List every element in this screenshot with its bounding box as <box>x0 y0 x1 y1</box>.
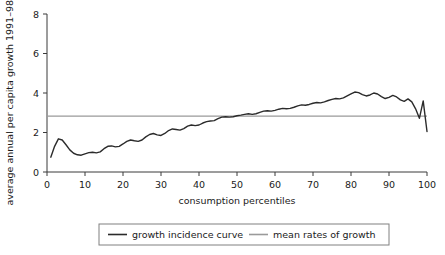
legend-label-growth-incidence-curve: growth incidence curve <box>132 229 243 240</box>
y-tick-label: 0 <box>33 167 39 178</box>
x-tick-label: 10 <box>79 179 91 190</box>
legend-label-mean-rates-of-growth: mean rates of growth <box>273 229 375 240</box>
y-tick-label: 2 <box>33 127 39 138</box>
chart-background <box>0 0 445 255</box>
y-tick-label: 8 <box>33 9 39 20</box>
x-tick-label: 50 <box>231 179 243 190</box>
y-axis-title: average annual per capita growth 1991–98… <box>4 0 15 205</box>
x-tick-label: 40 <box>193 179 205 190</box>
x-tick-label: 80 <box>345 179 357 190</box>
y-tick-label: 4 <box>33 88 39 99</box>
x-tick-label: 90 <box>383 179 395 190</box>
x-axis-title: consumption percentiles <box>179 195 296 206</box>
x-tick-label: 20 <box>117 179 129 190</box>
x-tick-label: 30 <box>155 179 167 190</box>
y-tick-label: 6 <box>33 48 39 59</box>
chart-canvas: 02468 0102030405060708090100 average ann… <box>0 0 445 255</box>
x-tick-label: 70 <box>307 179 319 190</box>
growth-incidence-chart: 02468 0102030405060708090100 average ann… <box>0 0 445 255</box>
x-tick-label: 60 <box>269 179 281 190</box>
x-tick-label: 100 <box>418 179 436 190</box>
x-tick-label: 0 <box>44 179 50 190</box>
